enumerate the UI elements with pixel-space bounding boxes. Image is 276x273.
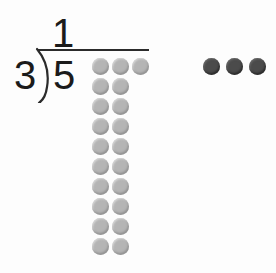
counter-dot[interactable] [112, 98, 129, 115]
counter-row [92, 238, 132, 258]
division-vinculum [38, 49, 149, 51]
counter-row [92, 78, 132, 98]
counter-dot[interactable] [92, 78, 109, 95]
counter-row [92, 158, 132, 178]
dividend-digit[interactable]: 5 [50, 55, 78, 95]
worksheet-canvas: 1 3 5 [0, 0, 276, 273]
divisor-digit[interactable]: 3 [12, 55, 38, 95]
counter-dot[interactable] [112, 138, 129, 155]
counter-dot[interactable] [112, 198, 129, 215]
quotient-digit[interactable]: 1 [48, 13, 78, 53]
counter-dot[interactable] [112, 118, 129, 135]
counter-row [92, 118, 132, 138]
counter-dot[interactable] [112, 238, 129, 255]
counter-row [92, 58, 152, 78]
counter-dot[interactable] [112, 178, 129, 195]
counter-dot[interactable] [112, 158, 129, 175]
counter-dot[interactable] [92, 178, 109, 195]
counter-row [92, 178, 132, 198]
counter-dot[interactable] [112, 218, 129, 235]
counter-row [92, 218, 132, 238]
counter-dot[interactable] [203, 58, 220, 75]
counter-dot[interactable] [92, 238, 109, 255]
counter-dot[interactable] [92, 138, 109, 155]
counter-row [92, 98, 132, 118]
remainder-counter-group [203, 58, 272, 76]
counter-dot[interactable] [112, 78, 129, 95]
counter-dot[interactable] [92, 58, 109, 75]
counter-dot[interactable] [92, 98, 109, 115]
counter-dot[interactable] [226, 58, 243, 75]
counter-row [92, 138, 132, 158]
counter-dot[interactable] [112, 58, 129, 75]
counter-row [92, 198, 132, 218]
counter-dot[interactable] [92, 218, 109, 235]
counter-dot[interactable] [132, 58, 149, 75]
counter-dot[interactable] [249, 58, 266, 75]
counter-dot[interactable] [92, 198, 109, 215]
counter-dot[interactable] [92, 118, 109, 135]
counter-dot[interactable] [92, 158, 109, 175]
